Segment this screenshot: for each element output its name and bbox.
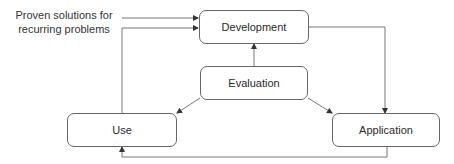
node-use-label: Use bbox=[112, 124, 132, 136]
edge-application-to-use bbox=[122, 146, 387, 157]
node-evaluation: Evaluation bbox=[200, 66, 308, 100]
edge-development-to-application bbox=[309, 27, 385, 113]
node-development-label: Development bbox=[222, 21, 287, 33]
node-use: Use bbox=[67, 113, 177, 147]
cycle-diagram: Proven solutions for recurring problems … bbox=[0, 0, 454, 164]
input-label-line-1: Proven solutions for bbox=[8, 8, 120, 22]
node-development: Development bbox=[199, 10, 309, 44]
node-evaluation-label: Evaluation bbox=[228, 77, 279, 89]
node-application: Application bbox=[332, 113, 440, 147]
input-label-line-2: recurring problems bbox=[8, 22, 120, 36]
input-label: Proven solutions for recurring problems bbox=[8, 8, 120, 36]
edge-evaluation-to-use bbox=[177, 98, 200, 113]
node-application-label: Application bbox=[359, 124, 413, 136]
edge-evaluation-to-application bbox=[308, 98, 332, 113]
edge-use-to-development bbox=[122, 28, 198, 113]
